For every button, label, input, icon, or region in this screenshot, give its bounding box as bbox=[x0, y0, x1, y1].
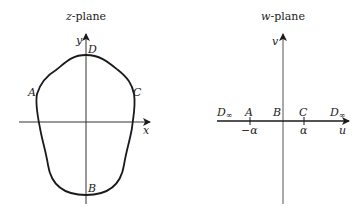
point-label-D-inf-right: D∞ bbox=[329, 106, 346, 120]
x-axis-label: x bbox=[143, 124, 150, 137]
w-plane-title: w-plane bbox=[261, 10, 305, 23]
point-label-C: C bbox=[299, 106, 308, 119]
w-plane-panel: w-plane v u −α α D∞ A B C D∞ bbox=[216, 10, 349, 204]
point-label-A: A bbox=[27, 86, 36, 99]
u-axis-label: u bbox=[339, 124, 346, 137]
point-label-D: D bbox=[87, 43, 97, 56]
v-axis-label: v bbox=[272, 35, 279, 48]
conformal-map-diagram: z-plane y x D A C B w-plane v u −α α D∞ bbox=[0, 0, 363, 213]
point-label-B: B bbox=[272, 106, 281, 119]
z-plane-title: z-plane bbox=[65, 10, 106, 23]
y-axis-label: y bbox=[75, 34, 83, 47]
z-plane-title-rest: -plane bbox=[72, 10, 106, 23]
point-label-A: A bbox=[244, 106, 253, 119]
z-plane-panel: z-plane y x D A C B bbox=[19, 10, 150, 204]
point-label-D-inf-left: D∞ bbox=[216, 106, 233, 120]
point-label-C: C bbox=[133, 86, 142, 99]
point-label-B: B bbox=[87, 182, 96, 195]
w-plane-title-rest: -plane bbox=[270, 10, 304, 23]
tick-label-alpha: α bbox=[300, 124, 308, 137]
tick-label-neg-alpha: −α bbox=[241, 124, 258, 137]
